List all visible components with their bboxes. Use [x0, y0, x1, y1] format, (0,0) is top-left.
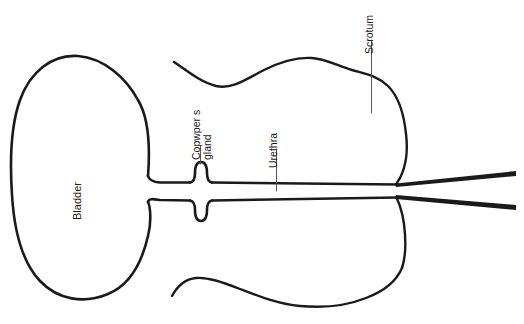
label-cowper-gland-line1: Copwper s — [190, 110, 202, 160]
diagram-background — [0, 0, 524, 324]
label-cowper-gland: Copwper sgland — [191, 110, 214, 160]
label-scrotum: Scrotum — [364, 15, 375, 54]
anatomical-diagram: Bladder Copwper sgland Urethra Scrotum — [0, 0, 524, 324]
label-urethra: Urethra — [268, 133, 279, 168]
diagram-canvas — [0, 0, 524, 324]
label-bladder: Bladder — [72, 182, 84, 220]
label-cowper-gland-line2: gland — [202, 110, 213, 160]
